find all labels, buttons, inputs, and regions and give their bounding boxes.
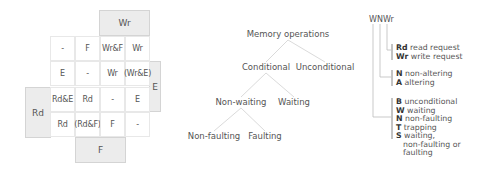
legend-group-altering: N non-altering A altering (396, 70, 453, 87)
tree-node-non-faulting: Non-faulting (188, 131, 240, 141)
legend-group-condition: B unconditional W waiting N non-faulting… (396, 98, 461, 158)
legend-continuation: faulting (396, 149, 461, 158)
tree-node-unconditional: Unconditional (296, 62, 354, 72)
legend-item: Wr write request (396, 53, 463, 62)
tree-node-memory-operations: Memory operations (247, 29, 330, 39)
legend-group-request: Rd read request Wr write request (396, 44, 463, 61)
tree-node-waiting: Waiting (278, 97, 310, 107)
tree-node-non-waiting: Non-waiting (215, 97, 266, 107)
legend-code: WNWr (369, 16, 394, 25)
legend-item: A altering (396, 79, 453, 88)
tree-node-faulting: Faulting (248, 131, 282, 141)
tree-node-conditional: Conditional (242, 62, 290, 72)
